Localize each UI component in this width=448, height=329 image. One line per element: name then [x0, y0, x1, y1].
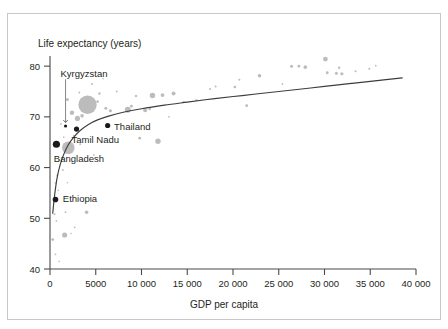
y-axis-ticks: 4050607080 [29, 61, 50, 275]
highlighted-point [64, 124, 67, 127]
bubble-point [55, 253, 57, 255]
bubble-point [70, 111, 74, 115]
x-tick-label: 40 000 [401, 278, 430, 289]
x-tick-label: 15 000 [173, 278, 202, 289]
bubble-point [238, 79, 240, 81]
bubble-point [130, 105, 133, 108]
bubble-point [51, 238, 54, 241]
bubble-point [98, 92, 100, 94]
x-tick-label: 20 000 [218, 278, 247, 289]
bubble-point [234, 86, 237, 89]
bubble-point [245, 104, 248, 107]
bubble-point [172, 92, 176, 96]
bubble-point [74, 227, 76, 229]
bubble-point [66, 98, 69, 101]
x-tick-label: 0 [47, 278, 52, 289]
scatter-plot: Life expectancy (years) 4050607080 05000… [0, 0, 448, 329]
bubble-point [56, 220, 58, 222]
bubble-point [109, 109, 112, 112]
bubble-point [91, 83, 93, 85]
bubble-point [375, 65, 377, 67]
y-axis-title: Life expectancy (years) [38, 38, 141, 49]
bubble-point [340, 72, 343, 75]
bubble-point [65, 211, 67, 213]
bubble-point [62, 232, 67, 237]
x-tick-label: 35 000 [356, 278, 385, 289]
bubble-point [104, 107, 107, 110]
bubble-point [75, 116, 80, 121]
highlighted-point [53, 197, 59, 203]
y-tick-label: 50 [29, 213, 40, 224]
bubble-point [290, 65, 293, 68]
bubble-point [355, 70, 357, 72]
x-axis-ticks: 0500010 00015 00020 00025 00030 00035 00… [47, 269, 430, 289]
bubble-point [138, 137, 141, 140]
highlighted-point [74, 126, 79, 131]
axis-lines [50, 56, 416, 269]
highlighted-point [53, 141, 60, 148]
highlighted-point [105, 123, 110, 128]
bubble-point [215, 85, 217, 87]
y-tick-label: 70 [29, 111, 40, 122]
bubble-point [150, 93, 155, 98]
x-tick-label: 30 000 [310, 278, 339, 289]
trend-line [53, 78, 403, 213]
x-axis-title: GDP per capita [190, 299, 259, 310]
bubble-point [168, 116, 170, 118]
bubble-point [297, 65, 300, 68]
bubble-point [54, 213, 56, 215]
bubble-point [338, 66, 340, 68]
point-label: Tamil Nadu [72, 134, 120, 145]
bubble-point [58, 261, 60, 263]
y-tick-label: 40 [29, 264, 40, 275]
bubble-point [62, 169, 64, 171]
bubble-point [282, 83, 284, 85]
point-label: Kyrgyzstan [61, 68, 108, 79]
bubble-point [78, 95, 96, 113]
bubble-point [80, 114, 84, 118]
bubble-point [63, 136, 65, 138]
bubble-point [161, 93, 165, 97]
x-tick-label: 5000 [85, 278, 106, 289]
bubble-point [67, 182, 69, 184]
point-label: Bangladesh [54, 153, 104, 164]
bubble-point [57, 190, 59, 192]
bubble-point [326, 71, 329, 74]
bubble-point [303, 65, 307, 69]
bubble-point [209, 88, 211, 90]
bubble-point [60, 123, 62, 125]
bubble-point [96, 100, 99, 103]
bubble-point [155, 139, 160, 144]
y-tick-label: 80 [29, 61, 40, 72]
annotation-labels-layer: KyrgyzstanThailandTamil NaduBangladeshEt… [54, 68, 151, 204]
bubble-point [78, 92, 80, 94]
x-tick-label: 10 000 [127, 278, 156, 289]
bubble-point [368, 68, 370, 70]
bubble-point [323, 57, 328, 62]
figure-canvas: Life expectancy (years) 4050607080 05000… [0, 0, 448, 329]
point-label: Thailand [114, 121, 150, 132]
x-tick-label: 25 000 [264, 278, 293, 289]
point-label: Ethiopia [63, 193, 98, 204]
bubble-point [335, 72, 338, 75]
y-tick-label: 60 [29, 162, 40, 173]
bubble-point [116, 91, 118, 93]
bubble-point [70, 233, 72, 235]
bubble-point [85, 210, 89, 214]
bubble-point [135, 95, 137, 97]
bubble-point [258, 74, 262, 78]
